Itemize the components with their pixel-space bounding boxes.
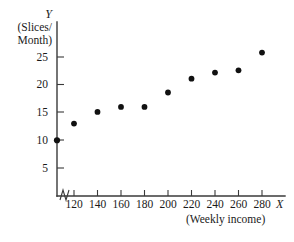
- data-point: [118, 104, 124, 110]
- data-point: [165, 90, 171, 96]
- data-point: [142, 104, 148, 110]
- x-tick-label-180: 180: [132, 199, 158, 211]
- x-axis-caption: (Weekly income): [186, 214, 265, 226]
- scatter-plot-figure: Y (Slices/ Month) 25 20 15 10 5 120 140 …: [0, 0, 294, 242]
- x-tick-label-140: 140: [85, 199, 111, 211]
- data-point: [259, 50, 265, 56]
- x-tick-label-200: 200: [155, 199, 181, 211]
- data-point-axis-10: [54, 137, 60, 143]
- data-point: [189, 76, 195, 82]
- y-axis-title: Y (Slices/ Month): [2, 8, 52, 47]
- x-tick-label-120: 120: [61, 199, 87, 211]
- data-point: [236, 67, 242, 73]
- x-axis-symbol: X: [276, 198, 283, 210]
- x-tick-label-280: 280: [249, 199, 275, 211]
- y-axis-symbol: Y: [2, 8, 52, 21]
- x-tick-label-240: 240: [202, 199, 228, 211]
- x-tick-label-260: 260: [226, 199, 252, 211]
- data-point: [71, 121, 77, 127]
- y-axis-caption-line1: (Slices/: [2, 21, 52, 34]
- data-point: [212, 70, 218, 76]
- y-tick-label-15: 15: [22, 107, 48, 119]
- y-tick-label-10: 10: [22, 135, 48, 147]
- y-tick-label-25: 25: [22, 52, 48, 64]
- y-axis-caption-line2: Month): [2, 34, 52, 47]
- y-tick-label-5: 5: [22, 163, 48, 175]
- x-tick-label-160: 160: [108, 199, 134, 211]
- data-point: [95, 109, 101, 115]
- y-tick-label-20: 20: [22, 79, 48, 91]
- x-tick-label-220: 220: [179, 199, 205, 211]
